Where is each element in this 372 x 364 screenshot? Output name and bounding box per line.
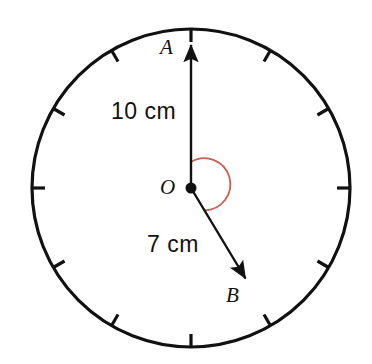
hour-tick-10	[53, 109, 64, 116]
vector-ob	[191, 188, 246, 279]
point-label-a: A	[160, 37, 173, 58]
point-label-o: O	[160, 177, 175, 198]
hour-tick-4	[317, 261, 328, 268]
angle-arc	[191, 158, 230, 210]
center-point-dot	[186, 183, 197, 194]
hour-tick-2	[317, 109, 328, 116]
hour-tick-1	[264, 50, 271, 61]
point-label-b: B	[226, 285, 239, 306]
length-label-ob: 7 cm	[147, 233, 199, 256]
geometry-figure: A B O 10 cm 7 cm	[0, 0, 372, 364]
hour-tick-8	[53, 261, 64, 268]
hour-tick-7	[112, 314, 119, 325]
length-label-oa: 10 cm	[111, 100, 176, 123]
hour-tick-5	[264, 314, 271, 325]
hour-tick-11	[112, 50, 119, 61]
circle-diagram-svg	[0, 0, 372, 364]
